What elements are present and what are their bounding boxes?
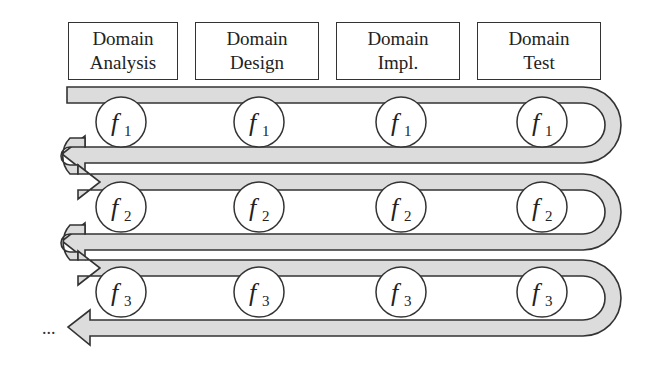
feature-node-r2-c2 — [234, 182, 284, 232]
phase-label-line1: Domain — [226, 27, 287, 51]
feature-index: 1 — [545, 123, 553, 139]
phase-box-domain-design: Domain Design — [195, 22, 319, 80]
phase-label-line1: Domain — [508, 27, 569, 51]
phase-label-line1: Domain — [92, 27, 153, 51]
feature-index: 2 — [404, 208, 412, 224]
feature-node-r1-c1 — [96, 97, 146, 147]
feature-node-r3-c1 — [96, 267, 146, 317]
feature-index: 3 — [545, 293, 553, 309]
feature-node-r1-c3 — [376, 97, 426, 147]
phase-label-line2: Design — [230, 51, 284, 75]
feature-node-r1-c2 — [234, 97, 284, 147]
feature-index: 3 — [404, 293, 412, 309]
feature-node-r3-c2 — [234, 267, 284, 317]
phase-label-line1: Domain — [367, 27, 428, 51]
feature-index: 1 — [262, 123, 270, 139]
continuation-ellipsis: ... — [42, 318, 56, 339]
feature-index: 3 — [124, 293, 132, 309]
phase-box-domain-impl: Domain Impl. — [336, 22, 460, 80]
feature-node-r3-c4 — [517, 267, 567, 317]
feature-node-r2-c4 — [517, 182, 567, 232]
feature-index: 2 — [124, 208, 132, 224]
phase-label-line2: Analysis — [90, 51, 157, 75]
phase-box-domain-test: Domain Test — [477, 22, 601, 80]
feature-index: 1 — [404, 123, 412, 139]
phase-label-line2: Test — [523, 51, 554, 75]
feature-index: 1 — [124, 123, 132, 139]
feature-node-r1-c4 — [517, 97, 567, 147]
feature-node-r2-c3 — [376, 182, 426, 232]
phase-box-domain-analysis: Domain Analysis — [68, 22, 178, 80]
feature-node-r3-c3 — [376, 267, 426, 317]
feature-node-r2-c1 — [96, 182, 146, 232]
feature-index: 2 — [545, 208, 553, 224]
phase-label-line2: Impl. — [378, 51, 419, 75]
feature-index: 3 — [262, 293, 270, 309]
feature-index: 2 — [262, 208, 270, 224]
